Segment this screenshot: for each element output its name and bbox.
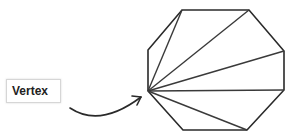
octagon-outline [148, 10, 284, 130]
octagon [148, 10, 284, 130]
octagon-diagram [0, 0, 288, 139]
vertex-label-box: Vertex [6, 79, 61, 103]
arrow-shaft [70, 97, 141, 116]
vertex-label: Vertex [12, 84, 48, 98]
curved-arrow-icon [70, 96, 141, 116]
diagonal-line [148, 91, 247, 130]
diagonal-line [148, 90, 284, 91]
diagonal-line [148, 10, 249, 91]
diagonal-line [148, 10, 182, 91]
diagonal-line [148, 51, 284, 91]
